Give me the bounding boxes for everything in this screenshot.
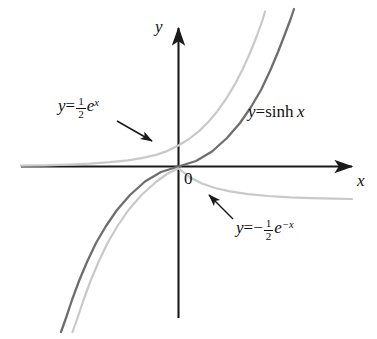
fraction-denominator: 2 xyxy=(264,231,274,242)
equation-lhs-y: y xyxy=(58,96,66,115)
curve-half-exp-x xyxy=(21,12,265,166)
fraction-one-half: 12 xyxy=(264,218,274,243)
sinh-argument: x xyxy=(297,102,305,121)
sinh-operator: sinh xyxy=(265,102,293,121)
annotation-arrow-neg-half-exp xyxy=(209,195,233,219)
equals-sign: = xyxy=(66,96,76,115)
hyperbolic-sine-figure: y x 0 y=12ex y=sinh x y=−12e−x xyxy=(0,0,377,339)
fraction-numerator: 1 xyxy=(264,218,274,229)
equation-lhs-y: y xyxy=(248,102,256,121)
fraction-one-half: 12 xyxy=(76,96,86,121)
minus-sign: − xyxy=(253,218,263,237)
exponent-x: x xyxy=(94,97,99,108)
y-axis-label: y xyxy=(155,18,163,35)
exponent-negative-x: −x xyxy=(282,219,294,230)
curve-neg-half-exp-negx xyxy=(73,168,353,332)
annotation-arrow-half-exp xyxy=(117,121,152,141)
x-axis-label: x xyxy=(357,172,365,189)
fraction-denominator: 2 xyxy=(76,109,86,120)
euler-base: e xyxy=(274,218,282,237)
fraction-numerator: 1 xyxy=(76,96,86,107)
equation-half-exp-x: y=12ex xyxy=(58,96,99,121)
equals-sign: = xyxy=(244,218,254,237)
origin-label: 0 xyxy=(184,170,193,187)
equals-sign: = xyxy=(256,102,266,121)
equation-lhs-y: y xyxy=(236,218,244,237)
equation-sinh: y=sinh x xyxy=(248,103,304,120)
equation-neg-half-exp-negx: y=−12e−x xyxy=(236,218,294,243)
